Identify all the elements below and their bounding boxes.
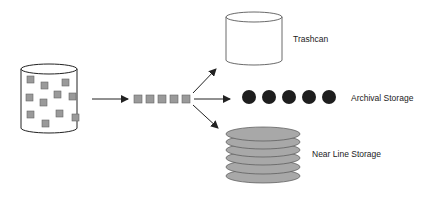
nearline-stack-icon	[226, 127, 300, 183]
trashcan-icon	[226, 12, 282, 65]
nearline-storage-label: Near Line Storage	[312, 149, 381, 159]
trashcan-label: Trashcan	[293, 34, 328, 44]
archival-storage-label: Archival Storage	[351, 93, 413, 103]
source-database-icon	[21, 64, 79, 133]
queue-items	[134, 95, 190, 103]
arrow-to-nearline	[193, 105, 218, 128]
arrow-to-trashcan	[193, 69, 216, 93]
archival-discs-icon	[242, 90, 336, 104]
